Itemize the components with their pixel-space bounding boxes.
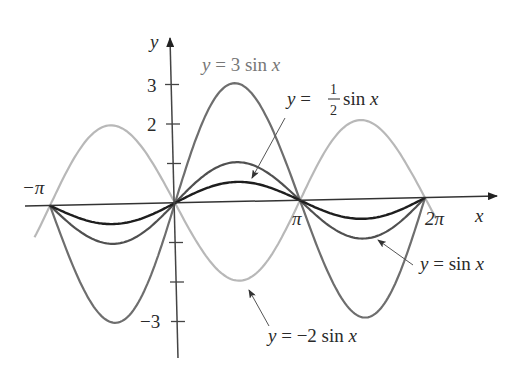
curves-group — [35, 83, 437, 323]
svg-text:1: 1 — [330, 82, 337, 97]
tick-label-2pi: 2π — [425, 208, 445, 229]
tick-label-neg-pi: −π — [22, 177, 45, 198]
arrow-neg2sinx — [249, 290, 269, 326]
tick-label-pi: π — [292, 208, 302, 229]
curve-y-3-sin-x — [50, 83, 425, 323]
tick-label-neg3: −3 — [140, 311, 160, 332]
svg-text:y =: y = — [285, 88, 311, 109]
annotation-sinx: y = sin x — [378, 240, 485, 274]
svg-text:y = −2 sin x: y = −2 sin x — [266, 325, 358, 346]
tick-label-3: 3 — [147, 75, 157, 96]
y-axis-label: y — [148, 31, 159, 52]
svg-text:2: 2 — [330, 103, 337, 118]
annotation-3sinx: y = 3 sin x — [200, 54, 281, 75]
sine-graph: y x −π π 2π 3 2 −3 y = 3 sin x y = 1 2 s… — [0, 0, 525, 378]
x-axis-label: x — [474, 205, 484, 226]
svg-text:sin x: sin x — [343, 88, 379, 109]
svg-text:y = sin x: y = sin x — [418, 253, 485, 274]
tick-label-2: 2 — [147, 114, 157, 135]
curve-y-2-sin-x — [35, 120, 437, 281]
curve-y-1-2-sin-x — [50, 182, 425, 224]
annotation-half-sinx: y = 1 2 sin x — [252, 82, 379, 178]
curve-y-sin-x — [50, 162, 425, 244]
